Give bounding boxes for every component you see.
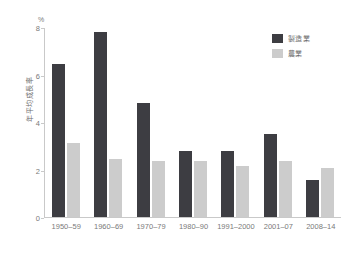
y-axis-tick-mark — [41, 218, 44, 219]
y-axis-tick-mark — [41, 123, 44, 124]
bar-chart: % 年平均成長率 02468 1950–591960–691970–791980… — [0, 0, 358, 255]
bar — [306, 180, 319, 217]
bar-group — [172, 28, 214, 217]
bar-group — [45, 28, 87, 217]
y-axis-tick-label: 0 — [36, 214, 40, 223]
x-axis-tick-label: 1950–59 — [45, 222, 87, 231]
bar — [94, 32, 107, 217]
legend-label: 製造業 — [288, 33, 310, 43]
y-axis-tick-label: 4 — [36, 119, 40, 128]
bar-group — [87, 28, 129, 217]
legend-swatch-icon — [272, 49, 283, 58]
x-axis-tick-label: 1980–90 — [172, 222, 214, 231]
bar — [264, 134, 277, 217]
bar — [179, 151, 192, 218]
legend-swatch-icon — [272, 34, 283, 43]
bar — [67, 143, 80, 217]
y-axis-title: 年平均成長率 — [24, 61, 34, 137]
legend-label: 農業 — [288, 48, 303, 58]
legend-item: 農業 — [272, 48, 310, 58]
legend-item: 製造業 — [272, 33, 310, 43]
bar-group — [214, 28, 256, 217]
x-axis-tick-label: 2001–07 — [257, 222, 299, 231]
x-axis-tick-label: 1960–69 — [87, 222, 129, 231]
y-axis-tick-mark — [41, 76, 44, 77]
x-axis-tick-label: 2008–14 — [300, 222, 342, 231]
x-axis-tick-label: 1970–79 — [130, 222, 172, 231]
bar — [152, 161, 165, 217]
y-axis-unit-label: % — [38, 16, 44, 23]
x-axis-tick-label: 1991–2000 — [215, 222, 257, 231]
bar — [279, 161, 292, 217]
x-axis-tick-labels: 1950–591960–691970–791980–901991–2000200… — [45, 222, 342, 231]
bar — [236, 166, 249, 217]
bar — [221, 151, 234, 218]
bar — [137, 103, 150, 217]
x-axis-line — [44, 217, 341, 218]
bar-group — [130, 28, 172, 217]
y-axis-tick-mark — [41, 28, 44, 29]
y-axis-tick-label: 8 — [36, 24, 40, 33]
y-axis-tick-label: 6 — [36, 71, 40, 80]
y-axis-tick-mark — [41, 171, 44, 172]
chart-legend: 製造業農業 — [272, 33, 310, 63]
bar — [321, 168, 334, 217]
y-axis-tick-label: 2 — [36, 166, 40, 175]
bar — [194, 161, 207, 217]
bar — [109, 159, 122, 217]
bar — [52, 64, 65, 217]
